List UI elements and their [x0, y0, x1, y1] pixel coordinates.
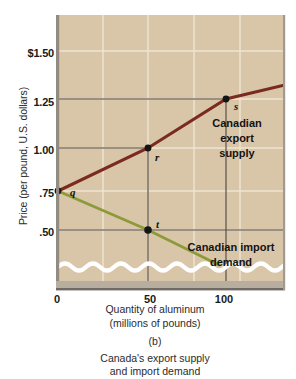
x-axis-band: [56, 281, 285, 289]
marker-point-t: [144, 226, 152, 234]
subcaption-line-2: and import demand: [40, 365, 270, 379]
figure-caption: Quantity of aluminum (millions of pounds…: [40, 303, 270, 379]
panel-letter: (b): [40, 335, 270, 349]
subcaption-line-1: Canada's export supply: [40, 352, 270, 366]
point-label-r: r: [155, 151, 160, 163]
x-axis-title-line-2: (millions of pounds): [40, 317, 270, 331]
x-axis-line: [56, 288, 285, 290]
marker-point-s: [223, 96, 230, 103]
marker-point-r: [145, 145, 152, 152]
x-axis-title-line-1: Quantity of aluminum: [40, 303, 270, 317]
y-axis-line: [56, 15, 59, 290]
annotation-export-line-3: supply: [219, 147, 255, 159]
annotation-import-line-2: demand: [210, 256, 252, 268]
annotation-export-line-2: export: [220, 132, 254, 144]
annotation-import-line-1: Canadian import: [188, 241, 275, 253]
figure-subcaption: Canada's export supply and import demand: [40, 352, 270, 379]
point-label-s: s: [233, 100, 238, 112]
annotation-export-line-1: Canadian: [212, 117, 262, 129]
plot-right-edge: [283, 15, 285, 290]
point-label-q: q: [70, 186, 76, 198]
